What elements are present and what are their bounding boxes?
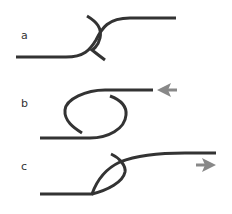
panel-c-loop-strand: [92, 154, 125, 194]
panel-b-strands: [40, 90, 153, 138]
knot-diagram: [0, 0, 232, 214]
panel-b-bottom-strand: [40, 96, 126, 138]
panel-c-main-strand: [40, 153, 216, 194]
panel-b-top-strand: [65, 90, 153, 133]
arrow-right-icon: [196, 158, 216, 172]
panel-c-strands: [40, 153, 216, 194]
arrow-left-icon: [157, 83, 177, 97]
panel-a-strands: [16, 16, 176, 60]
